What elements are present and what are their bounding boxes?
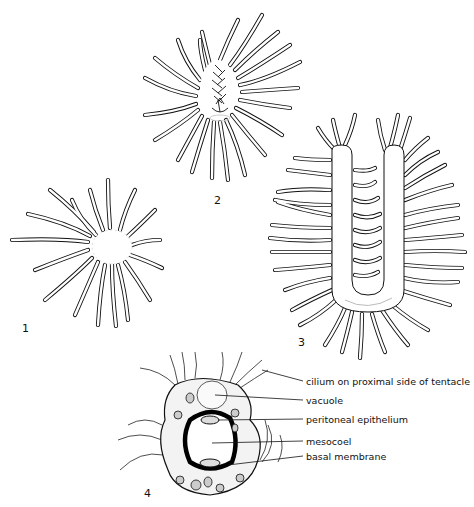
panel-1-lophophore bbox=[12, 180, 162, 326]
panel-4-cross-section bbox=[118, 352, 303, 495]
label-vacuole: vacuole bbox=[306, 396, 343, 406]
figure-number-4: 4 bbox=[144, 488, 151, 499]
label-cilium: cilium on proximal side of tentacle bbox=[306, 377, 470, 387]
label-basal-membrane: basal membrane bbox=[306, 452, 386, 462]
label-peritoneal-epithelium: peritoneal epithelium bbox=[306, 415, 408, 425]
figure-number-3: 3 bbox=[298, 337, 305, 348]
panel-2-lophophore bbox=[145, 15, 300, 180]
illustration-canvas bbox=[0, 0, 474, 507]
figure-number-2: 2 bbox=[214, 195, 221, 206]
panel-3-lophophore bbox=[270, 115, 465, 358]
label-mesocoel: mesocoel bbox=[306, 437, 351, 447]
figure-number-1: 1 bbox=[22, 323, 29, 334]
